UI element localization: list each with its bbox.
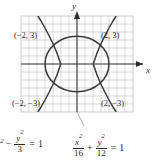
ellipse-fraction-x: x2 16 [73, 136, 84, 158]
y-axis-arrow [74, 11, 80, 19]
hyperbola-operator: − [6, 138, 12, 149]
hyperbola-x-exponent: 2 [0, 137, 3, 144]
x-axis-arrow [136, 61, 143, 67]
ellipse-fraction-y-denominator: 12 [96, 149, 107, 158]
ellipse-equation: x2 16 + y2 12 = 1 [72, 136, 124, 158]
ellipse-operator: + [87, 142, 93, 153]
ellipse-rhs: 1 [119, 142, 124, 153]
hyperbola-rhs: 1 [38, 138, 43, 149]
ellipse-fraction-y-numerator: y2 [97, 136, 106, 147]
point-label-bottom-left: (−2, −3) [12, 99, 40, 108]
ellipse-fraction-y-numerator-var: y [98, 137, 102, 147]
figure-root: y x (−2, 3) (2, 3) (−2, −3) (2, −3) x 2 … [0, 0, 156, 164]
y-axis-label: y [72, 2, 76, 11]
hyperbola-fraction-denominator: 3 [17, 145, 24, 154]
coordinate-plot: y x (−2, 3) (2, 3) (−2, −3) (2, −3) [0, 0, 156, 130]
ellipse-fraction-x-denominator: 16 [73, 149, 84, 158]
x-axis-label: x [146, 66, 150, 75]
hyperbola-fraction-numerator: y2 [15, 132, 24, 143]
ellipse-fraction-y: y2 12 [96, 136, 107, 158]
ellipse-fraction-x-numerator: x2 [74, 136, 83, 147]
hyperbola-equals: = [29, 138, 35, 149]
point-label-bottom-right: (2, −3) [101, 99, 124, 108]
ellipse-fraction-x-numerator-exponent: 2 [79, 132, 82, 139]
hyperbola-fraction-numerator-exponent: 2 [20, 128, 23, 135]
equations-row: x 2 − y2 3 = 1 x2 16 + y2 12 = [0, 128, 156, 164]
ellipse-equals: = [111, 142, 117, 153]
point-label-top-left: (−2, 3) [14, 31, 37, 40]
ellipse-fraction-y-numerator-exponent: 2 [102, 132, 105, 139]
hyperbola-fraction: y2 3 [14, 132, 25, 154]
point-label-top-right: (2, 3) [101, 31, 119, 40]
hyperbola-equation: x 2 − y2 3 = 1 [0, 132, 43, 154]
plot-svg [0, 0, 156, 130]
